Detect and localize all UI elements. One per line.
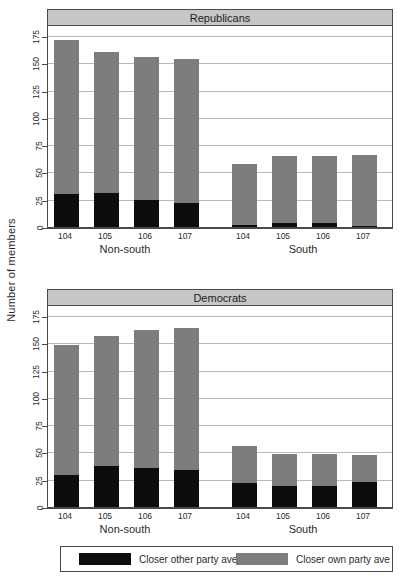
y-axis-tick-label: 100 [19, 394, 43, 404]
bar-democrats-south-105 [272, 454, 297, 508]
x-axis-tick-label: 107 [178, 511, 192, 521]
gridline [48, 36, 392, 37]
bar-segment-own-party [352, 155, 377, 226]
y-axis-tick-label: 175 [19, 312, 43, 322]
y-axis-tick-value: 50 [33, 169, 43, 178]
y-axis-tick-label: 175 [19, 32, 43, 42]
bar-republicans-south-106 [312, 156, 337, 227]
y-axis-tick-label: 75 [19, 141, 43, 151]
y-axis-tick-value: 100 [31, 112, 41, 126]
bar-segment-own-party [272, 454, 297, 487]
bar-segment-other-party [94, 193, 119, 227]
bar-segment-own-party [94, 52, 119, 193]
bar-republicans-non-south-105 [94, 52, 119, 227]
bar-segment-other-party [134, 468, 159, 507]
y-axis-tick-value: 125 [31, 84, 41, 98]
axis-baseline [48, 507, 392, 508]
y-axis-tick-value: 175 [31, 30, 41, 44]
y-axis-title-label: Number of members [5, 218, 17, 322]
x-axis-tick-label: 104 [58, 231, 72, 241]
panel-democrats: Democrats 025507510012515017510410510610… [47, 289, 393, 517]
legend-label-own: Closer own party ave [296, 554, 390, 565]
y-axis-tick-value: 150 [31, 57, 41, 71]
x-axis-group-label-non-south: Non-south [100, 523, 151, 535]
bar-democrats-non-south-107 [174, 328, 199, 507]
y-axis-tick-label: 50 [19, 168, 43, 178]
bar-segment-own-party [134, 330, 159, 468]
legend-item-own: Closer own party ave [236, 553, 390, 565]
legend-swatch-own [236, 553, 288, 565]
y-axis-tick-value: 175 [31, 310, 41, 324]
x-axis-tick-label: 104 [236, 231, 250, 241]
y-axis-tick-label: 150 [19, 339, 43, 349]
bar-segment-other-party [54, 475, 79, 507]
bar-segment-own-party [54, 40, 79, 194]
bar-segment-other-party [54, 194, 79, 227]
bar-republicans-south-105 [272, 156, 297, 227]
y-axis-tick-label: 75 [19, 421, 43, 431]
y-axis-tick-label: 0 [19, 503, 43, 513]
x-axis-tick-label: 106 [316, 231, 330, 241]
y-axis-tick-value: 100 [31, 392, 41, 406]
bar-segment-other-party [352, 482, 377, 507]
y-axis-tick-label: 125 [19, 87, 43, 97]
bar-democrats-south-104 [232, 446, 257, 507]
x-axis-tick-label: 106 [138, 231, 152, 241]
x-axis-tick-label: 105 [98, 231, 112, 241]
bar-segment-own-party [352, 455, 377, 482]
bar-segment-own-party [174, 328, 199, 470]
legend-swatch-other [79, 553, 131, 565]
panel-title-strip-republicans: Republicans [47, 9, 393, 26]
x-axis-tick-label: 105 [276, 231, 290, 241]
x-axis-tick-label: 105 [98, 511, 112, 521]
axis-baseline [48, 227, 392, 228]
legend-item-other: Closer other party ave [79, 553, 237, 565]
bar-republicans-non-south-104 [54, 40, 79, 227]
bar-democrats-south-107 [352, 455, 377, 507]
legend: Closer other party aveCloser own party a… [60, 546, 393, 572]
panel-title-label: Democrats [193, 292, 246, 304]
bar-republicans-south-104 [232, 164, 257, 227]
bar-segment-own-party [94, 336, 119, 466]
x-axis-tick-label: 106 [316, 511, 330, 521]
x-axis-tick-label: 104 [236, 511, 250, 521]
bar-democrats-non-south-104 [54, 345, 79, 507]
y-axis-tick-value: 0 [36, 506, 46, 511]
y-axis-title: Number of members [0, 0, 22, 540]
x-axis-tick-label: 107 [356, 511, 370, 521]
bar-segment-other-party [312, 486, 337, 507]
y-axis-tick-label: 25 [19, 476, 43, 486]
y-axis-tick-value: 25 [33, 476, 43, 485]
x-axis-tick-label: 104 [58, 511, 72, 521]
bar-segment-own-party [232, 446, 257, 483]
bar-segment-other-party [272, 486, 297, 507]
gridline [48, 316, 392, 317]
bar-republicans-non-south-107 [174, 59, 199, 227]
y-axis-tick-value: 0 [36, 226, 46, 231]
x-axis-tick-label: 106 [138, 511, 152, 521]
y-axis-tick-label: 125 [19, 367, 43, 377]
bar-segment-other-party [174, 470, 199, 507]
panel-title-strip-democrats: Democrats [47, 289, 393, 306]
bar-segment-other-party [232, 483, 257, 507]
x-axis-group-label-non-south: Non-south [100, 243, 151, 255]
panel-republicans: Republicans 0255075100125150175104105106… [47, 9, 393, 237]
bar-segment-other-party [134, 200, 159, 227]
y-axis-tick-value: 50 [33, 449, 43, 458]
bar-republicans-south-107 [352, 155, 377, 227]
bar-segment-own-party [134, 57, 159, 200]
x-axis-group-label-south: South [289, 523, 318, 535]
bar-segment-own-party [312, 454, 337, 487]
x-axis-tick-label: 105 [276, 511, 290, 521]
bar-segment-other-party [174, 203, 199, 227]
x-axis-group-label-south: South [289, 243, 318, 255]
y-axis-tick-value: 25 [33, 196, 43, 205]
bar-segment-own-party [54, 345, 79, 475]
y-axis-tick-label: 150 [19, 59, 43, 69]
y-axis-tick-label: 100 [19, 114, 43, 124]
bar-republicans-non-south-106 [134, 57, 159, 227]
bar-democrats-non-south-106 [134, 330, 159, 507]
y-axis-tick-value: 75 [33, 421, 43, 430]
bar-democrats-south-106 [312, 454, 337, 508]
bar-segment-other-party [312, 223, 337, 227]
